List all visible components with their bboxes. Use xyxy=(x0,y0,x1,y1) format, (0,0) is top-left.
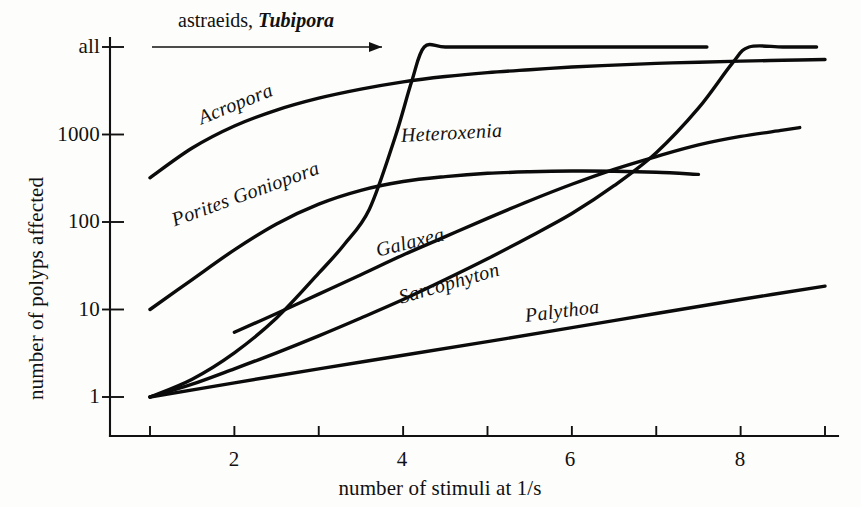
astraeids-tubipora-arrow xyxy=(152,42,382,52)
y-tick-label-100: 100 xyxy=(40,211,100,232)
astraeids-tubipora-label: astraeids, Tubipora xyxy=(178,10,334,30)
x-tick-label-8: 8 xyxy=(720,449,760,470)
y-tick-label-all: all xyxy=(48,36,100,57)
chart-canvas xyxy=(0,0,861,507)
annotation-plain-text: astraeids, xyxy=(178,9,253,31)
y-tick-label-10: 10 xyxy=(48,299,100,320)
curve-label-heteroxenia: Heteroxenia xyxy=(400,120,502,145)
x-tick-label-4: 4 xyxy=(382,449,422,470)
x-tick-label-2: 2 xyxy=(214,449,254,470)
y-axis-ticks xyxy=(102,47,124,397)
curve-galaxea xyxy=(234,128,799,333)
y-axis-title: number of polyps affected xyxy=(26,40,47,400)
x-tick-label-6: 6 xyxy=(550,449,590,470)
x-axis-ticks xyxy=(150,426,825,436)
y-tick-label-1: 1 xyxy=(55,386,100,407)
figure-root: all 1000 100 10 1 2 4 6 8 number of stim… xyxy=(0,0,861,507)
x-axis-title: number of stimuli at 1/s xyxy=(230,478,650,499)
annotation-italic-text: Tubipora xyxy=(258,9,334,31)
